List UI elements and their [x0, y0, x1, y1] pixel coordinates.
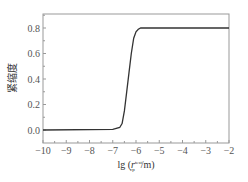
svg-text:−2: −2: [224, 145, 235, 156]
svg-text:−4: −4: [177, 145, 188, 156]
svg-text:−5: −5: [154, 145, 165, 156]
svg-text:0.2: 0.2: [28, 99, 41, 110]
svg-text:0.4: 0.4: [28, 74, 41, 85]
svg-text:−9: −9: [61, 145, 72, 156]
y-axis-label: 紧缩度: [6, 63, 18, 93]
svg-text:−8: −8: [84, 145, 95, 156]
svg-text:0.0: 0.0: [28, 125, 41, 136]
svg-text:0.6: 0.6: [28, 48, 41, 59]
data-line: [43, 28, 229, 130]
x-axis-label: lg (rtestcp/m): [117, 159, 154, 172]
x-axis: −10−9−8−7−6−5−4−3−2: [35, 140, 234, 156]
svg-text:−10: −10: [35, 145, 51, 156]
svg-text:−6: −6: [131, 145, 142, 156]
chart: 0.00.20.40.60.8 −10−9−8−7−6−5−4−3−2 紧缩度 …: [0, 0, 248, 182]
svg-text:−3: −3: [200, 145, 211, 156]
svg-text:0.8: 0.8: [28, 23, 41, 34]
svg-text:−7: −7: [107, 145, 118, 156]
